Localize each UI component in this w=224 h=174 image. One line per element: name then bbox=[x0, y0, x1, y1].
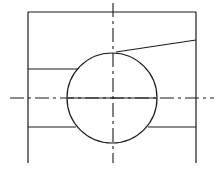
technical-drawing bbox=[0, 0, 224, 174]
sloped-line bbox=[116, 40, 196, 52]
